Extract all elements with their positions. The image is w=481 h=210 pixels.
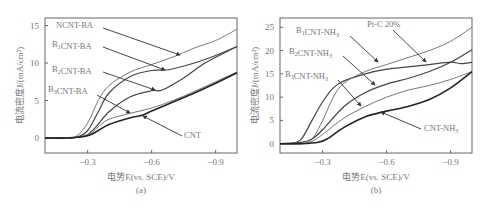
y-tick-label: 10 [30,58,40,68]
series-line-cnt [45,73,237,138]
series-label: B1CNT-BA [52,39,92,51]
y-axis-label: 电流密度J/(mA/cm²) [14,47,25,125]
y-tick-label: 20 [265,46,275,56]
series-line-b3cnt-nh3 [280,72,472,144]
x-tick-label: −0.6 [144,157,161,167]
y-tick-label: 25 [265,22,275,32]
series-label: B3CNT-NH3 [285,69,328,82]
x-axis-label: 电势E(vs. SCE)/V [342,171,410,182]
annotation-b3cnt-ba: B3CNT-BA [48,84,130,113]
x-tick-label: −0.3 [80,157,97,167]
chart-figure: 051015−0.3−0.6−0.9电流密度J/(mA/cm²)电势E(vs. … [0,0,481,210]
y-tick-label: 5 [35,96,40,106]
panel-a: 051015−0.3−0.6−0.9电流密度J/(mA/cm²)电势E(vs. … [14,18,237,195]
series-label: B2CNT-BA [52,64,92,76]
series-label: B3CNT-BA [48,84,88,96]
arrow-icon [350,36,378,62]
series-label: B1CNT-NH3 [296,25,339,38]
panel-b: 0510152025−0.3−0.6−0.9电流密度J/(mA/cm²)电势E(… [249,18,472,195]
arrow-icon [103,47,165,70]
x-tick-label: −0.9 [208,157,225,167]
series-label: Pt-C 20% [367,19,400,29]
y-axis-label: 电流密度J/(mA/cm²) [249,47,260,125]
series-label: CNT [184,130,202,140]
y-tick-label: 15 [265,69,275,79]
series-label: CNT-NH3 [424,123,458,134]
x-tick-label: −0.3 [315,157,332,167]
y-tick-label: 5 [270,115,275,125]
y-tick-label: 0 [270,139,275,149]
y-tick-label: 15 [30,21,40,31]
annotation-pt-c-20-: Pt-C 20% [367,19,426,62]
arrow-icon [103,72,155,90]
x-tick-label: −0.6 [379,157,396,167]
y-tick-label: 0 [35,133,40,143]
annotation-cnt: CNT [143,116,202,140]
arrow-icon [143,116,182,136]
x-tick-label: −0.9 [443,157,460,167]
series-label: NCNT-BA [56,20,94,30]
annotation-cnt-nh3: CNT-NH3 [381,112,458,134]
x-axis-label: 电势E(vs. SCE)/V [107,171,175,182]
series-label: B2CNT-NH3 [289,46,332,59]
arrow-icon [381,112,421,129]
panel-caption: (a) [136,185,146,195]
panel-caption: (b) [371,185,382,195]
series-line-b3cnt-ba [45,72,237,138]
y-tick-label: 10 [265,92,275,102]
